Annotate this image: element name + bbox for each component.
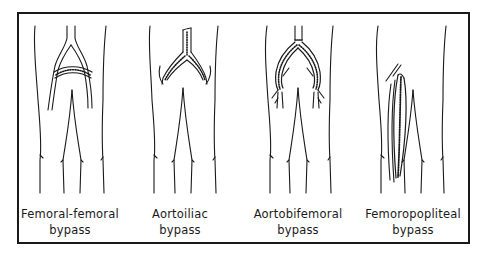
label-femoral-femoral-line1: Femoral-femoral	[10, 206, 130, 222]
label-femoropopliteal-line1: Femoropopliteal	[353, 206, 473, 222]
panel-femoropopliteal-drawing	[376, 26, 446, 193]
label-aortobifemoral: Aortobifemoral bypass	[238, 206, 358, 238]
label-femoral-femoral-line2: bypass	[10, 222, 130, 238]
label-aortobifemoral-line1: Aortobifemoral	[238, 206, 358, 222]
panel-aortobifemoral-drawing	[265, 26, 333, 193]
label-femoropopliteal: Femoropopliteal bypass	[353, 206, 473, 238]
label-aortoiliac-line1: Aortoiliac	[120, 206, 240, 222]
label-aortoiliac: Aortoiliac bypass	[120, 206, 240, 238]
label-aortoiliac-line2: bypass	[120, 222, 240, 238]
label-femoropopliteal-line2: bypass	[353, 222, 473, 238]
panel-femoral-femoral-drawing	[34, 26, 106, 193]
label-femoral-femoral: Femoral-femoral bypass	[10, 206, 130, 238]
panel-aortoiliac-drawing	[149, 26, 218, 193]
label-aortobifemoral-line2: bypass	[238, 222, 358, 238]
